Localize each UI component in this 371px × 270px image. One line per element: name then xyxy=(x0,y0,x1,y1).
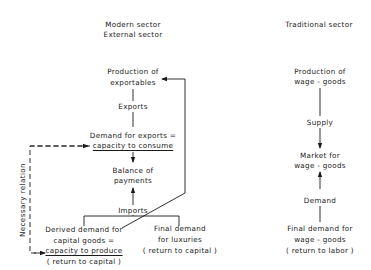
external-sector-heading: External sector xyxy=(104,30,163,39)
traditional-sector-heading: Traditional sector xyxy=(285,20,352,29)
final-demand-wage-goods-label: Final demand for xyxy=(287,224,352,233)
capacity-to-consume-label: capacity to consume xyxy=(93,141,173,150)
production-wage-goods-label: Production of xyxy=(294,67,345,76)
capacity-to-produce-label: capacity to produce xyxy=(45,246,122,255)
luxuries-return-label: ( return to capital ) xyxy=(143,246,217,255)
production-wage-goods-label-2: wage - goods xyxy=(294,77,346,86)
derived-demand-label-2: capital goods = xyxy=(54,236,115,245)
supply-label: Supply xyxy=(307,118,333,127)
exports-label: Exports xyxy=(118,102,147,111)
flow-diagram: Modern sector External sector Production… xyxy=(0,0,371,270)
market-wage-goods-label-2: wage - goods xyxy=(294,161,346,170)
demand-exports-label: Demand for exports = xyxy=(90,131,176,140)
necessary-relation-label: Necessary relation xyxy=(18,163,27,237)
production-exportables-label-2: exportables xyxy=(110,78,156,87)
production-exportables-label: Production of xyxy=(107,67,158,76)
balance-of-payments-label: Balance of xyxy=(113,166,154,175)
imports-label: Imports xyxy=(118,206,148,215)
final-demand-luxuries-label-2: for luxuries xyxy=(158,235,202,244)
final-demand-wage-goods-label-2: wage - goods xyxy=(294,235,346,244)
balance-of-payments-label-2: payments xyxy=(114,176,152,185)
derived-return-label: ( return to capital ) xyxy=(47,257,121,266)
derived-demand-label: Derived demand for xyxy=(45,225,123,234)
final-demand-luxuries-label: Final demand xyxy=(154,224,206,233)
demand-label: Demand xyxy=(304,196,336,205)
return-to-labor-label: ( return to labor ) xyxy=(286,246,354,255)
market-wage-goods-label: Market for xyxy=(300,151,340,160)
modern-sector-heading: Modern sector xyxy=(105,20,160,29)
